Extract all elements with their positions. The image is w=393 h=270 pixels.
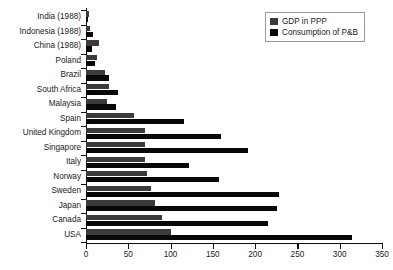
bar-row xyxy=(86,83,382,97)
y-axis-tick-mark xyxy=(81,126,86,127)
bar-gdp-in-ppp xyxy=(86,84,109,89)
y-axis-tick-mark xyxy=(81,170,86,171)
bar-consumption-of-pb xyxy=(86,17,88,22)
y-axis-tick-label: China (1988) xyxy=(0,39,84,53)
bar-consumption-of-pb xyxy=(86,61,95,66)
y-axis-tick-label: Poland xyxy=(0,54,84,68)
x-axis-tick-label: 350 xyxy=(375,250,389,259)
legend-label-gdp: GDP in PPP xyxy=(282,17,327,26)
chart-legend: GDP in PPP Consumption of P&B xyxy=(265,12,365,42)
chart-container: India (1988)Indonesia (1988)China (1988)… xyxy=(0,0,393,270)
y-axis-tick-label: Singapore xyxy=(0,141,84,155)
x-axis-tick-label: 250 xyxy=(291,250,305,259)
y-axis-tick-label: Canada xyxy=(0,213,84,227)
y-axis-tick-mark xyxy=(81,155,86,156)
x-axis-tick-label: 100 xyxy=(164,250,178,259)
bar-row xyxy=(86,141,382,155)
x-axis-tick-label: 150 xyxy=(206,250,220,259)
y-axis-tick-label: Malaysia xyxy=(0,97,84,111)
y-axis-tick-mark xyxy=(81,228,86,229)
y-axis-tick-mark xyxy=(81,83,86,84)
y-axis-tick-label: USA xyxy=(0,228,84,242)
y-axis-tick-label: Sweden xyxy=(0,184,84,198)
legend-label-consumption: Consumption of P&B xyxy=(282,28,358,37)
x-axis-tick-label: 0 xyxy=(84,250,89,259)
bar-row xyxy=(86,126,382,140)
bar-row xyxy=(86,54,382,68)
x-axis-line xyxy=(86,243,383,244)
bar-row xyxy=(86,112,382,126)
bar-consumption-of-pb xyxy=(86,90,118,95)
x-axis-tick-label: 50 xyxy=(124,250,133,259)
x-axis-tick-mark xyxy=(128,244,129,249)
y-axis-tick-mark xyxy=(81,242,86,243)
x-axis-tick-mark xyxy=(171,244,172,249)
legend-item-consumption: Consumption of P&B xyxy=(270,27,358,38)
bar-rows xyxy=(86,10,382,242)
bar-consumption-of-pb xyxy=(86,206,277,211)
y-axis-tick-mark xyxy=(81,25,86,26)
bar-consumption-of-pb xyxy=(86,221,268,226)
plot-area xyxy=(86,10,382,242)
legend-swatch-gdp-icon xyxy=(270,18,278,25)
x-axis-tick-mark xyxy=(213,244,214,249)
bar-gdp-in-ppp xyxy=(86,142,145,147)
y-axis-tick-label: South Africa xyxy=(0,83,84,97)
bar-gdp-in-ppp xyxy=(86,215,162,220)
bar-gdp-in-ppp xyxy=(86,113,134,118)
bar-row xyxy=(86,228,382,242)
bar-gdp-in-ppp xyxy=(86,11,89,16)
bar-consumption-of-pb xyxy=(86,119,184,124)
y-axis-tick-mark xyxy=(81,97,86,98)
legend-item-gdp: GDP in PPP xyxy=(270,16,358,27)
y-axis-tick-label: India (1988) xyxy=(0,10,84,24)
y-axis-tick-label: Norway xyxy=(0,170,84,184)
y-axis-tick-label: Italy xyxy=(0,155,84,169)
x-axis-tick-mark xyxy=(382,244,383,249)
y-axis-tick-label: Spain xyxy=(0,112,84,126)
bar-consumption-of-pb xyxy=(86,148,248,153)
bar-row xyxy=(86,184,382,198)
bar-consumption-of-pb xyxy=(86,75,109,80)
y-axis-tick-mark xyxy=(81,10,86,11)
y-axis-tick-mark xyxy=(81,141,86,142)
bar-row xyxy=(86,97,382,111)
bar-gdp-in-ppp xyxy=(86,99,107,104)
y-axis-tick-label: Japan xyxy=(0,199,84,213)
y-axis-tick-label: Brazil xyxy=(0,68,84,82)
bar-consumption-of-pb xyxy=(86,134,221,139)
bar-row xyxy=(86,170,382,184)
y-axis-tick-mark xyxy=(81,199,86,200)
bar-consumption-of-pb xyxy=(86,46,92,51)
x-axis-tick-label: 300 xyxy=(333,250,347,259)
bar-row xyxy=(86,213,382,227)
y-axis-tick-mark xyxy=(81,39,86,40)
bar-consumption-of-pb xyxy=(86,177,219,182)
bar-row xyxy=(86,68,382,82)
y-axis-tick-label: Indonesia (1988) xyxy=(0,25,84,39)
bar-consumption-of-pb xyxy=(86,104,116,109)
x-axis-tick-mark xyxy=(297,244,298,249)
x-axis-tick-mark xyxy=(255,244,256,249)
bar-gdp-in-ppp xyxy=(86,40,99,45)
y-axis-category-labels: India (1988)Indonesia (1988)China (1988)… xyxy=(0,10,84,242)
legend-swatch-consumption-icon xyxy=(270,29,278,36)
y-axis-tick-label: United Kingdom xyxy=(0,126,84,140)
bar-consumption-of-pb xyxy=(86,192,279,197)
x-axis-tick-mark xyxy=(86,244,87,249)
bar-consumption-of-pb xyxy=(86,235,352,240)
bar-gdp-in-ppp xyxy=(86,186,151,191)
bar-gdp-in-ppp xyxy=(86,229,171,234)
bar-gdp-in-ppp xyxy=(86,128,145,133)
bar-row xyxy=(86,155,382,169)
bar-row xyxy=(86,199,382,213)
y-axis-tick-mark xyxy=(81,54,86,55)
bar-consumption-of-pb xyxy=(86,32,93,37)
bar-gdp-in-ppp xyxy=(86,157,145,162)
bar-gdp-in-ppp xyxy=(86,200,155,205)
bar-gdp-in-ppp xyxy=(86,26,90,31)
y-axis-tick-mark xyxy=(81,184,86,185)
y-axis-tick-mark xyxy=(81,213,86,214)
x-axis-tick-mark xyxy=(340,244,341,249)
y-axis-tick-mark xyxy=(81,68,86,69)
